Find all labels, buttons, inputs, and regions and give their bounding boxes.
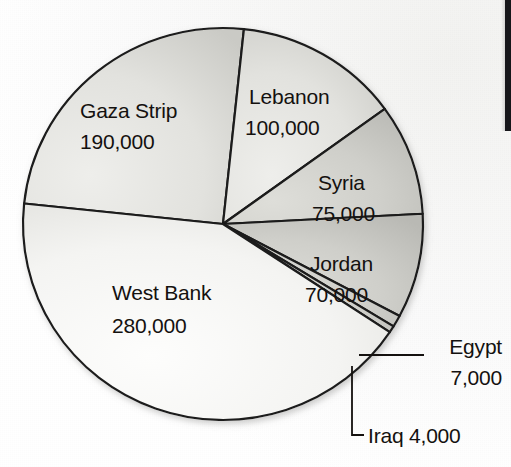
slice-label-lebanon: Lebanon [249, 85, 329, 108]
callout-leader-lines-group [352, 355, 424, 435]
slice-value-gaza-strip: 190,000 [80, 130, 155, 153]
scan-edge-artifact [505, 0, 511, 131]
leader-line-iraq [352, 366, 364, 435]
slice-value-lebanon: 100,000 [245, 116, 320, 139]
pie-chart-figure: Gaza Strip190,000Lebanon100,000Syria75,0… [0, 0, 511, 467]
slice-value-egypt: 7,000 [450, 366, 502, 389]
slice-label-gaza-strip: Gaza Strip [80, 99, 177, 122]
pie-chart-svg: Gaza Strip190,000Lebanon100,000Syria75,0… [0, 0, 511, 467]
slice-value-west-bank: 280,000 [112, 314, 187, 337]
pie-slice-gaza-strip[interactable] [24, 28, 244, 224]
slice-value-syria: 75,000 [312, 202, 375, 225]
slice-label-syria: Syria [318, 171, 365, 194]
slice-label-west-bank: West Bank [112, 281, 212, 304]
slice-label-egypt: Egypt [449, 335, 502, 358]
slice-label-jordan: Jordan [310, 252, 373, 275]
scan-edge-shadow [501, 0, 505, 131]
slice-label-iraq: Iraq 4,000 [368, 424, 461, 447]
slice-value-jordan: 70,000 [305, 283, 368, 306]
